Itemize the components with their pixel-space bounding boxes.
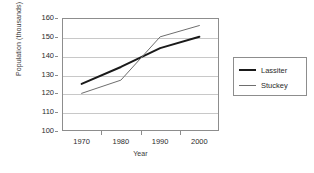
y-tick-mark (55, 131, 58, 132)
y-tick-label: 120 (41, 89, 54, 97)
x-tick-mark (101, 131, 102, 135)
legend-swatch-icon (239, 85, 256, 86)
y-tick-label: 130 (41, 71, 54, 79)
legend-item-stuckey[interactable]: Stuckey (239, 79, 288, 91)
x-axis-ticks: 1970198019902000 (62, 131, 219, 149)
y-tick-label: 150 (41, 33, 54, 41)
y-tick-mark (55, 37, 58, 38)
line-chart: Population (thousands) 10011012013014015… (0, 0, 314, 173)
chart-legend: LassiterStuckey (233, 57, 307, 96)
series-line-stuckey (82, 26, 200, 94)
x-tick-label: 1980 (113, 138, 130, 146)
x-tick-label: 1970 (73, 138, 90, 146)
y-tick-mark (55, 75, 58, 76)
y-axis-ticks: 100110120130140150160 (0, 18, 58, 131)
y-tick-mark (55, 112, 58, 113)
y-tick-label: 100 (41, 127, 54, 135)
x-tick-label: 2000 (191, 138, 208, 146)
x-tick-mark (141, 131, 142, 135)
legend-label: Stuckey (261, 81, 288, 90)
legend-swatch-icon (239, 69, 256, 71)
x-axis-title: Year (62, 150, 219, 157)
y-tick-label: 110 (42, 108, 54, 116)
x-tick-mark (180, 131, 181, 135)
data-series-layer (62, 18, 219, 131)
y-tick-mark (55, 93, 58, 94)
y-tick-label: 160 (41, 14, 54, 22)
y-tick-mark (55, 56, 58, 57)
legend-item-lassiter[interactable]: Lassiter (239, 64, 287, 76)
legend-label: Lassiter (261, 66, 287, 75)
x-tick-label: 1990 (152, 138, 169, 146)
y-tick-mark (55, 18, 58, 19)
series-line-lassiter (82, 37, 200, 84)
y-tick-label: 140 (41, 52, 54, 60)
